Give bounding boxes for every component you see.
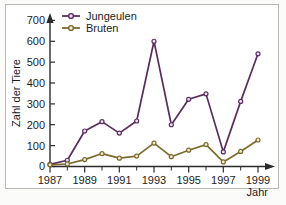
legend-swatch-marker-jungeulen [69,14,74,19]
data-point [169,123,173,127]
line-chart: 700 600 500 400 300 200 100 0 Zahl der T… [0,0,286,205]
y-tick-label-0: 0 [39,160,45,172]
data-point [221,160,225,164]
legend-entry-jungeulen[interactable]: Jungeulen [62,10,137,22]
data-point [187,97,191,101]
data-point [239,149,243,153]
data-point [100,152,104,156]
figure-container: 700 600 500 400 300 200 100 0 Zahl der T… [0,0,286,205]
y-axis-arrow-icon [46,13,53,23]
data-point [256,138,260,142]
data-point [65,162,69,166]
data-point [100,120,104,124]
series-layer [48,39,260,167]
legend-entry-bruten[interactable]: Bruten [62,22,118,34]
data-point [117,156,121,160]
data-point [187,148,191,152]
data-point [239,99,243,103]
y-tick-label-400: 400 [27,77,45,89]
data-point [117,131,121,135]
legend-label-jungeulen: Jungeulen [86,10,137,22]
data-point [135,154,139,158]
x-axis-ticks [50,167,258,173]
data-point [83,158,87,162]
y-axis-ticks [50,20,55,166]
y-tick-label-300: 300 [27,98,45,110]
x-axis-arrow-icon [265,163,275,170]
y-tick-label-200: 200 [27,119,45,131]
data-point [152,39,156,43]
series-jungeulen [48,39,260,166]
data-point [204,92,208,96]
x-tick-label-1991: 1991 [107,174,131,186]
cut-off-caption [6,196,276,205]
data-point [169,155,173,159]
y-tick-label-600: 600 [27,35,45,47]
x-tick-label-1995: 1995 [176,174,200,186]
data-point [256,52,260,56]
x-tick-label-1989: 1989 [72,174,96,186]
data-point [135,119,139,123]
x-tick-label-1999: 1999 [246,174,270,186]
data-point [221,150,225,154]
legend: Jungeulen Bruten [62,10,137,34]
series-bruten [48,138,260,167]
x-tick-label-1993: 1993 [142,174,166,186]
y-axis-title: Zahl der Tiere [10,59,22,127]
data-point [48,163,52,167]
data-point [152,141,156,145]
x-axis: 1987 1989 1991 1993 1995 1997 1999 Jahr [38,163,275,198]
data-point [204,143,208,147]
legend-swatch-marker-bruten [69,26,74,31]
series-line-jungeulen [50,41,258,164]
x-tick-label-1987: 1987 [38,174,62,186]
y-tick-label-100: 100 [27,140,45,152]
y-tick-label-700: 700 [27,14,45,26]
x-tick-label-1997: 1997 [211,174,235,186]
legend-label-bruten: Bruten [86,22,118,34]
y-tick-label-500: 500 [27,56,45,68]
y-axis: 700 600 500 400 300 200 100 0 Zahl der T… [10,13,55,172]
data-point [83,129,87,133]
